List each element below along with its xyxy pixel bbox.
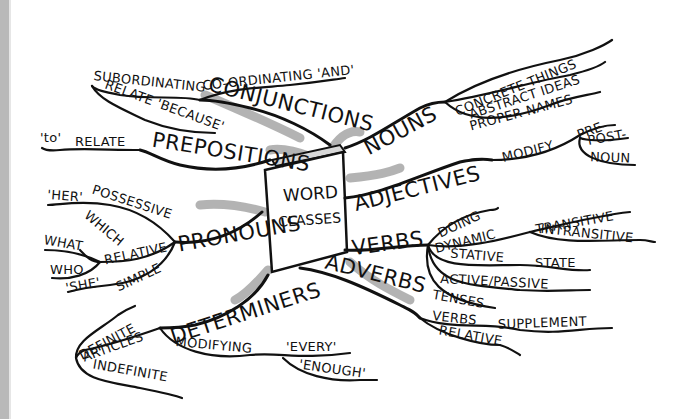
enough-label: 'ENOUGH' <box>298 357 367 381</box>
branch-prepositions: PREPOSITIONS RELATE 'to' <box>40 128 312 177</box>
center-title: WORD <box>282 182 338 206</box>
modifying-label: MODIFYING <box>175 334 253 356</box>
noun-label: NOUN <box>590 149 631 165</box>
adjectives-label: ADJECTIVES <box>351 161 483 216</box>
every-label: 'EVERY' <box>286 339 337 354</box>
state-label: STATE <box>535 255 576 270</box>
stative-label: STATIVE <box>450 245 505 265</box>
relate-label: RELATE <box>75 134 126 149</box>
nouns-label: NOUNS <box>360 102 441 160</box>
who-label: WHO <box>50 262 84 277</box>
tenses-label: TENSES <box>430 287 485 311</box>
verbs-label: VERBS <box>350 226 425 260</box>
supplement-label: SUPPLEMENT <box>498 314 587 332</box>
modify-label: MODIFY <box>500 138 555 165</box>
simple-label: SIMPLE <box>113 260 163 294</box>
mind-map: WORD CLASSES CONJUNCTIONS SUBORDINATING … <box>0 0 689 419</box>
branch-nouns: NOUNS CONCRETE THINGS ABSTRACT IDEAS PRO… <box>345 40 612 160</box>
which-label: WHICH <box>81 207 127 249</box>
her-example-label: 'HER' <box>47 187 84 204</box>
branch-conjunctions: CONJUNCTIONS SUBORDINATING CO-ORDINATING… <box>92 62 376 145</box>
active-passive-label: ACTIVE/PASSIVE <box>440 271 549 292</box>
to-example-label: 'to' <box>40 130 61 145</box>
possessive-label: POSSESSIVE <box>90 182 174 222</box>
